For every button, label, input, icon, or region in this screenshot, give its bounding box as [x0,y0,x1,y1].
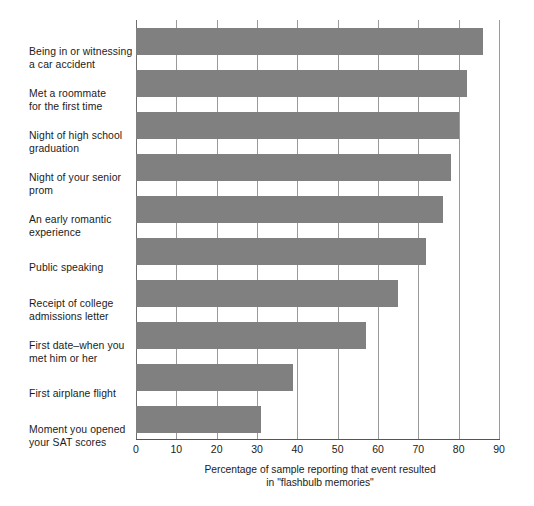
x-tick-label-0: 0 [121,443,151,455]
x-tick-label-90: 90 [484,443,514,455]
x-tick-label-10: 10 [161,443,191,455]
x-axis-title: Percentage of sample reporting that even… [110,463,530,489]
category-label-roommate: Met a roommate for the first time [29,88,133,113]
x-axis-title-line-1: Percentage of sample reporting that even… [204,464,435,475]
bar-airplane-flight [136,364,293,391]
bar-senior-prom [136,154,451,181]
bar-public-speaking [136,238,426,265]
x-tick-label-70: 70 [403,443,433,455]
category-label-first-date: First date–when you met him or her [29,340,133,365]
x-axis-tick-labels: 0102030405060708090 [136,443,500,459]
x-tick-label-60: 60 [363,443,393,455]
flashbulb-memories-bar-chart: Being in or witnessing a car accident Me… [0,0,534,506]
category-label-car-accident: Being in or witnessing a car accident [29,46,133,71]
bar-graduation [136,112,459,139]
category-label-airplane-flight: First airplane flight [29,388,133,401]
x-tick-label-80: 80 [444,443,474,455]
x-axis-line [136,439,500,440]
category-label-senior-prom: Night of your senior prom [29,172,133,197]
bars-group [136,20,499,440]
bar-romantic-experience [136,196,443,223]
x-tick-label-40: 40 [282,443,312,455]
bar-car-accident [136,28,483,55]
category-label-college-admissions: Receipt of college admissions letter [29,298,133,323]
category-label-graduation: Night of high school graduation [29,130,133,155]
bar-college-admissions [136,280,398,307]
gridline-90 [499,20,500,440]
x-tick-label-30: 30 [242,443,272,455]
category-label-romantic-experience: An early romantic experience [29,214,133,239]
category-axis-labels: Being in or witnessing a car accident Me… [0,20,136,440]
category-label-public-speaking: Public speaking [29,262,133,275]
bar-sat-scores [136,406,261,433]
x-tick-label-50: 50 [323,443,353,455]
bar-roommate [136,70,467,97]
plot-area [136,20,499,440]
x-axis-title-line-2: in "flashbulb memories" [110,476,530,489]
category-label-sat-scores: Moment you opened your SAT scores [29,424,133,449]
x-tick-label-20: 20 [202,443,232,455]
bar-first-date [136,322,366,349]
